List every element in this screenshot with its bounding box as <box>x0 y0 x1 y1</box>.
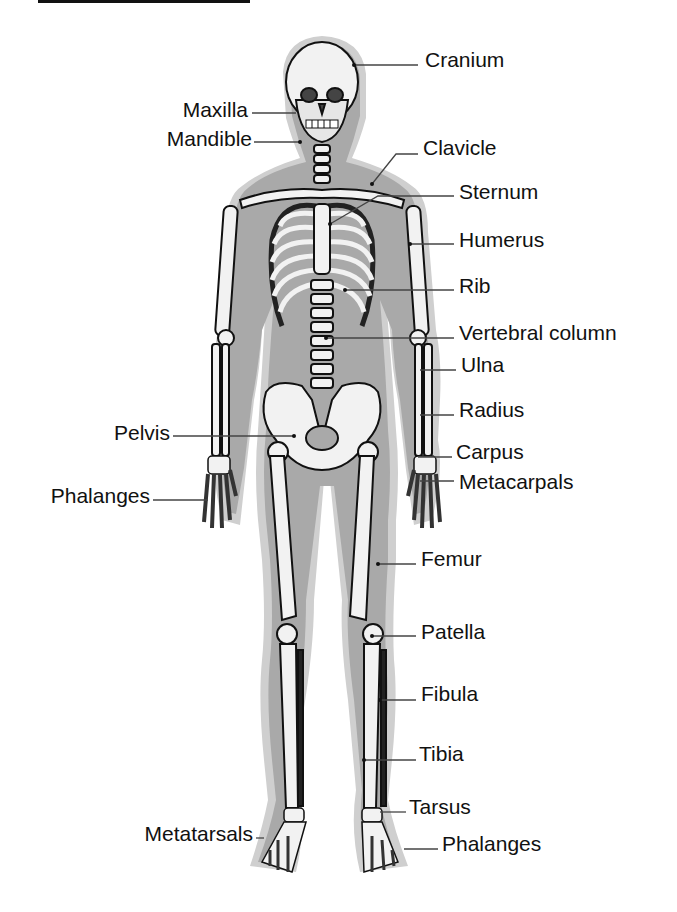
label-radius: Radius <box>459 399 524 420</box>
label-clavicle: Clavicle <box>423 137 497 158</box>
lower-legs <box>280 644 386 808</box>
label-cranium: Cranium <box>425 49 504 70</box>
label-sternum: Sternum <box>459 181 538 202</box>
label-phalanges-foot: Phalanges <box>442 833 541 854</box>
label-rib: Rib <box>459 275 491 296</box>
skeleton-illustration <box>0 0 677 912</box>
label-mandible: Mandible <box>167 128 252 149</box>
label-patella: Patella <box>421 621 485 642</box>
label-pelvis: Pelvis <box>114 422 170 443</box>
label-femur: Femur <box>421 548 482 569</box>
label-phalanges-hand: Phalanges <box>51 485 150 506</box>
label-fibula: Fibula <box>421 683 478 704</box>
patella-right <box>363 624 383 644</box>
label-ulna: Ulna <box>461 354 504 375</box>
label-tarsus: Tarsus <box>409 796 471 817</box>
label-vertebral-column: Vertebral column <box>459 322 617 343</box>
label-metatarsals: Metatarsals <box>144 823 253 844</box>
label-humerus: Humerus <box>459 229 544 250</box>
label-maxilla: Maxilla <box>183 99 248 120</box>
label-metacarpals: Metacarpals <box>459 471 573 492</box>
sternum-bone <box>314 204 330 274</box>
patella-left <box>277 624 297 644</box>
label-tibia: Tibia <box>419 743 464 764</box>
label-carpus: Carpus <box>456 441 524 462</box>
